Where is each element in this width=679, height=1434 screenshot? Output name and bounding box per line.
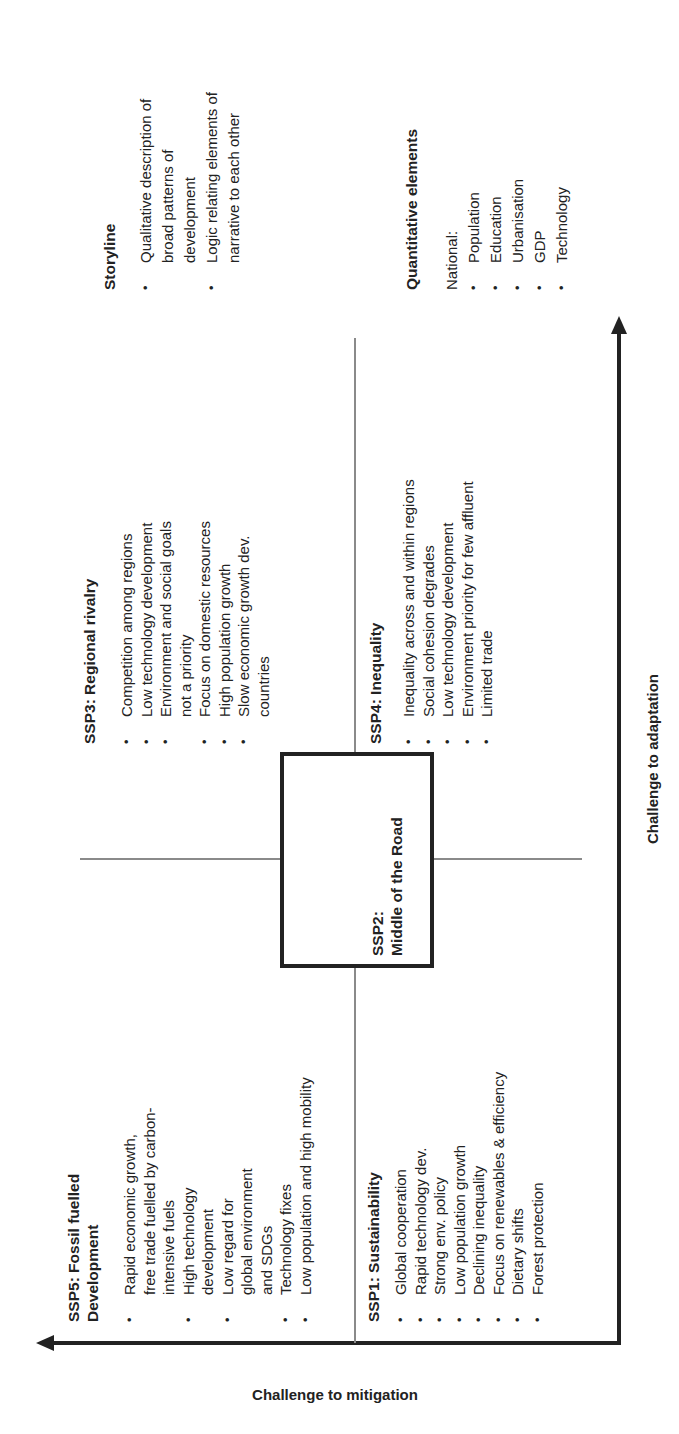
quadrant-ssp1: SSP1: Sustainability Global cooperation … bbox=[364, 1022, 547, 1322]
list-item: Urbanisation bbox=[507, 30, 529, 290]
adaptation-axis-label: Challenge to adaptation bbox=[644, 674, 661, 844]
quantitative-intro: National: bbox=[441, 30, 463, 290]
list-item: Strong env. policy bbox=[430, 1022, 450, 1322]
list-item: Education bbox=[485, 30, 507, 290]
list-item: Forest protection bbox=[528, 1022, 548, 1322]
quadrant-ssp5: SSP5: Fossil fuelled Development Rapid e… bbox=[64, 962, 315, 1322]
list-item: Low population and high mobility bbox=[296, 1015, 316, 1322]
list-item: Focus on domestic resources bbox=[195, 499, 215, 744]
ssp3-list: Competition among regions Low technology… bbox=[117, 499, 273, 744]
mitigation-axis-label: Challenge to mitigation bbox=[252, 1386, 418, 1403]
list-item: Qualitative description of broad pattern… bbox=[135, 93, 201, 290]
ssp2-title: SSP2: Middle of the Road bbox=[368, 817, 406, 956]
list-item: Slow economic growth dev. countries bbox=[234, 517, 273, 744]
list-item: Technology bbox=[551, 30, 573, 290]
adaptation-axis bbox=[617, 333, 621, 1345]
list-item: Population bbox=[463, 30, 485, 290]
quantitative-list: Population Education Urbanisation GDP Te… bbox=[463, 30, 573, 290]
list-item: Environment priority for few affluent bbox=[458, 424, 478, 744]
list-item: High technology development bbox=[179, 1107, 218, 1322]
quantitative-panel: Quantitative elements National: Populati… bbox=[402, 30, 573, 290]
mitigation-arrow-icon bbox=[36, 1335, 54, 1351]
mitigation-axis bbox=[52, 1341, 621, 1345]
list-item: High population growth bbox=[215, 499, 235, 744]
list-item: Low technology development bbox=[438, 424, 458, 744]
list-item: Social cohesion degrades bbox=[419, 424, 439, 744]
ssp2-center-box: SSP2: Middle of the Road bbox=[280, 752, 434, 968]
storyline-panel: Storyline Qualitative description of bro… bbox=[100, 30, 245, 290]
list-item: Declining inequality bbox=[469, 1022, 489, 1322]
list-item: Competition among regions bbox=[117, 499, 137, 744]
ssp1-title: SSP1: Sustainability bbox=[364, 1022, 383, 1322]
list-item: GDP bbox=[529, 30, 551, 290]
storyline-title: Storyline bbox=[100, 30, 119, 290]
ssp4-list: Inequality across and within regions Soc… bbox=[399, 424, 497, 744]
list-item: Environment and social goals not a prior… bbox=[156, 499, 195, 744]
quadrant-ssp3: SSP3: Regional rivalry Competition among… bbox=[80, 364, 273, 744]
list-item: Rapid economic growth, free trade fuelle… bbox=[120, 1107, 179, 1322]
ssp1-list: Global cooperation Rapid technology dev.… bbox=[391, 1022, 547, 1322]
adaptation-arrow-icon bbox=[611, 316, 627, 334]
list-item: Inequality across and within regions bbox=[399, 424, 419, 744]
ssp4-title: SSP4: Inequality bbox=[366, 344, 385, 744]
list-item: Low technology development bbox=[137, 499, 157, 744]
list-item: Limited trade bbox=[477, 424, 497, 744]
quadrant-ssp4: SSP4: Inequality Inequality across and w… bbox=[366, 344, 497, 744]
list-item: Focus on renewables & efficiency bbox=[489, 1022, 509, 1322]
quantitative-title: Quantitative elements bbox=[402, 30, 421, 290]
list-item: Global cooperation bbox=[391, 1022, 411, 1322]
list-item: Technology fixes bbox=[276, 1107, 296, 1322]
list-item: Dietary shifts bbox=[508, 1022, 528, 1322]
ssp-diagram: Challenge to mitigation Challenge to ada… bbox=[0, 0, 679, 1434]
list-item: Low population growth bbox=[450, 1022, 470, 1322]
list-item: Rapid technology dev. bbox=[411, 1022, 431, 1322]
storyline-list: Qualitative description of broad pattern… bbox=[135, 50, 245, 290]
ssp5-title: SSP5: Fossil fuelled Development bbox=[64, 962, 102, 1322]
list-item: Logic relating elements of narrative to … bbox=[201, 53, 245, 290]
list-item: Low regard for global environment and SD… bbox=[218, 1155, 277, 1322]
ssp5-list: Rapid economic growth, free trade fuelle… bbox=[120, 1107, 315, 1322]
ssp3-title: SSP3: Regional rivalry bbox=[80, 364, 99, 744]
